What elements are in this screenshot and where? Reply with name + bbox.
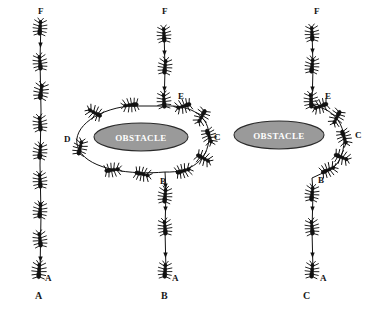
panel-c: OBSTACLE F E C B A [234,6,362,283]
ant [157,25,172,43]
ant [157,218,172,236]
node-label-d: D [64,134,71,144]
ant [305,261,320,279]
ant [158,261,173,279]
ant [174,162,194,180]
ant [157,56,173,75]
ant [335,128,354,149]
arrow-head [163,253,167,259]
ant [104,162,123,178]
ant [157,186,172,204]
node-label-f: F [38,6,44,16]
ant [304,183,320,202]
arrow-head [310,207,314,213]
panel-a: F A [31,6,52,283]
node-label-a: A [320,273,327,283]
ant [332,148,353,167]
ant [33,81,50,101]
ant [71,137,89,157]
node-label-f: F [314,6,320,16]
ant [83,102,105,122]
arrow-head [163,207,167,213]
obstacle-label: OBSTACLE [253,131,305,141]
ant [32,141,48,160]
node-label-b: B [318,175,324,185]
panel-caption-c: C [303,290,311,301]
node-label-c: C [214,132,221,142]
ant [33,18,48,36]
node-label-a: A [45,273,52,283]
ant [193,148,215,168]
node-label-b: B [160,176,166,186]
ant [120,97,139,113]
ant [304,218,319,236]
ant [304,55,320,74]
ant [32,52,48,71]
ant [32,171,47,189]
arrow-head [310,253,314,259]
ant [133,165,153,183]
obstacle-label: OBSTACLE [115,133,167,143]
node-label-e: E [178,91,184,101]
diagram-canvas: F A OBSTACLE [0,0,372,320]
ant [32,201,47,219]
ant-trail-figure: F A OBSTACLE [0,0,372,320]
node-label-f: F [162,6,168,16]
node-label-c: C [355,130,362,140]
ant [326,107,346,129]
arrow-head [310,49,314,55]
ant [305,24,320,42]
node-label-a: A [172,273,179,283]
node-label-e: E [325,91,331,101]
ant [32,229,48,248]
ant [191,106,211,128]
arrow-head [162,51,166,57]
panel-b: OBSTACLE F E C D B A [64,6,221,283]
panel-caption-b: B [161,290,168,301]
ant [32,114,47,132]
arrow-head [38,43,42,49]
panel-caption-a: A [35,290,43,301]
